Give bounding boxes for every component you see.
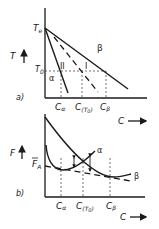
beta-boundary-line (45, 28, 128, 89)
alpha-boundary-line (45, 28, 68, 93)
c-t0-label-b: C(T0) (76, 201, 94, 213)
common-tangent-line (45, 166, 131, 181)
panel-a: Te T T0 II I β α a) Cα C(T0) Cβ C (10, 8, 147, 126)
panel-a-y-label: T (10, 51, 17, 61)
panel-a-tag: a) (16, 93, 24, 102)
panel-b-tag: b) (16, 189, 24, 198)
panel-b-x-label: C (120, 212, 127, 222)
c-t0-label-a: C(T0) (75, 102, 93, 114)
phase-diagram: Te T T0 II I β α a) Cα C(T0) Cβ C F (0, 0, 159, 229)
c-beta-label-b: Cβ (106, 201, 116, 212)
c-alpha-label-a: Cα (55, 102, 65, 112)
te-label: Te (33, 23, 43, 34)
alpha-phase-label: α (49, 74, 54, 83)
panel-b-y-label: F (10, 148, 16, 158)
c-alpha-label-b: Cα (56, 201, 66, 211)
panel-b: F FA α β b) Cα C(T0) Cβ C (10, 114, 146, 222)
beta-phase-label: β (97, 43, 103, 53)
region-II-label: II (60, 62, 65, 71)
fa-label: FA (32, 159, 41, 170)
alpha-curve-label: α (97, 146, 102, 155)
t0-label: T0 (35, 65, 44, 75)
region-I-label: I (85, 62, 87, 71)
panel-a-x-label: C (118, 116, 125, 126)
beta-curve-label: β (134, 172, 139, 181)
c-beta-label-a: Cβ (100, 102, 110, 113)
